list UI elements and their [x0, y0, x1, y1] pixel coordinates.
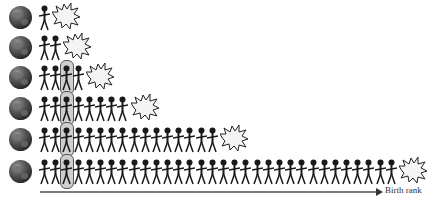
person-icon — [229, 159, 240, 185]
person-icon — [117, 127, 128, 153]
person-icon — [319, 159, 330, 185]
person-icon — [140, 159, 151, 185]
person-icon — [117, 159, 128, 185]
person-icon — [84, 96, 95, 122]
person-icon — [296, 159, 307, 185]
person-icon — [386, 159, 397, 185]
person-icon — [106, 127, 117, 153]
person-icon — [151, 127, 162, 153]
highlighted-person-icon — [61, 159, 72, 185]
person-icon — [140, 127, 151, 153]
person-icon — [363, 159, 374, 185]
figure-group — [39, 127, 248, 155]
person-icon — [73, 127, 84, 153]
person-icon — [285, 159, 296, 185]
person-icon — [84, 159, 95, 185]
figure-group — [39, 65, 114, 93]
explosion-icon — [220, 125, 248, 149]
person-icon — [207, 159, 218, 185]
person-icon — [173, 127, 184, 153]
person-icon — [95, 159, 106, 185]
person-icon — [341, 159, 352, 185]
globe-icon — [9, 160, 32, 183]
axis-arrow-icon — [376, 188, 383, 196]
generation-row — [0, 33, 444, 63]
generation-row — [0, 3, 444, 33]
figure-group — [39, 5, 80, 33]
person-icon — [95, 127, 106, 153]
person-icon — [184, 159, 195, 185]
generation-row — [0, 63, 444, 93]
person-icon — [129, 127, 140, 153]
highlighted-person-icon — [61, 96, 72, 122]
person-icon — [84, 127, 95, 153]
person-icon — [39, 96, 50, 122]
person-icon — [263, 159, 274, 185]
person-icon — [162, 127, 173, 153]
person-icon — [50, 35, 61, 61]
globe-icon — [9, 66, 32, 89]
person-icon — [196, 127, 207, 153]
person-icon — [184, 127, 195, 153]
person-icon — [252, 159, 263, 185]
person-icon — [129, 159, 140, 185]
person-icon — [39, 65, 50, 91]
person-icon — [39, 127, 50, 153]
person-icon — [196, 159, 207, 185]
person-icon — [39, 159, 50, 185]
globe-icon — [9, 97, 32, 120]
figure-group — [39, 159, 427, 187]
person-icon — [330, 159, 341, 185]
figure-group — [39, 96, 159, 124]
person-icon — [207, 127, 218, 153]
person-icon — [73, 65, 84, 91]
person-icon — [218, 159, 229, 185]
highlighted-person-icon — [61, 65, 72, 91]
person-icon — [39, 5, 50, 31]
person-icon — [73, 159, 84, 185]
person-icon — [39, 35, 50, 61]
person-icon — [151, 159, 162, 185]
person-icon — [352, 159, 363, 185]
figure-group — [39, 35, 91, 63]
person-icon — [375, 159, 386, 185]
explosion-icon — [399, 157, 427, 181]
person-icon — [240, 159, 251, 185]
generation-row — [0, 94, 444, 124]
explosion-icon — [86, 63, 114, 87]
explosion-icon — [131, 94, 159, 118]
person-icon — [117, 96, 128, 122]
generation-row — [0, 157, 444, 187]
person-icon — [162, 159, 173, 185]
globe-icon — [9, 36, 32, 59]
explosion-icon — [52, 3, 80, 27]
globe-icon — [9, 6, 32, 29]
globe-icon — [9, 128, 32, 151]
person-icon — [106, 159, 117, 185]
highlighted-person-icon — [61, 127, 72, 153]
person-icon — [73, 96, 84, 122]
person-icon — [274, 159, 285, 185]
person-icon — [95, 96, 106, 122]
axis-label: Birth rank — [385, 185, 422, 195]
explosion-icon — [63, 33, 91, 57]
birth-rank-axis — [40, 191, 377, 193]
person-icon — [106, 96, 117, 122]
generation-row — [0, 125, 444, 155]
person-icon — [173, 159, 184, 185]
person-icon — [308, 159, 319, 185]
